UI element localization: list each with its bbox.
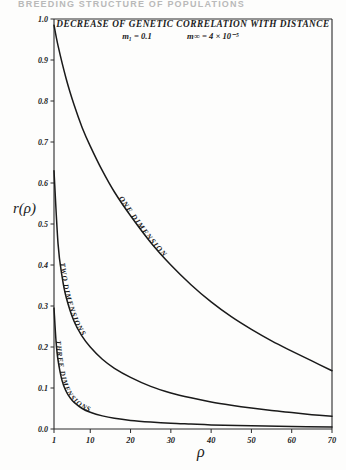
- x-tick-label: 50: [247, 436, 256, 445]
- curve-labels: ONE DIMENSIONTWO DIMENSIONSTHREE DIMENSI…: [54, 194, 169, 414]
- genetic-correlation-chart: DECREASE OF GENETIC CORRELATION WITH DIS…: [0, 0, 346, 470]
- x-axis: 110203040506070: [52, 429, 337, 445]
- y-tick-label: 0.8: [38, 97, 48, 106]
- plot-frame: [54, 19, 332, 429]
- x-tick-label: 40: [206, 436, 216, 445]
- x-tick-label: 10: [86, 436, 95, 445]
- y-tick-label: 0.0: [38, 425, 48, 434]
- parameter-m-infinity: m∞ = 4 × 10⁻⁵: [187, 31, 239, 41]
- x-tick-label: 1: [52, 436, 56, 445]
- figure-page: BREEDING STRUCTURE OF POPULATIONS DECREA…: [0, 0, 346, 470]
- y-tick-label: 0.5: [38, 220, 48, 229]
- curve-label-two-dimensions: TWO DIMENSIONS: [58, 262, 88, 338]
- y-axis-title: r(ρ): [13, 200, 36, 217]
- parameter-m1: m₁ = 0.1: [122, 31, 152, 41]
- curve-three-dimensions: [54, 308, 332, 427]
- curve-label-three-dimensions: THREE DIMENSIONS: [54, 340, 92, 414]
- y-tick-label: 0.1: [38, 384, 48, 393]
- y-tick-label: 0.3: [38, 302, 48, 311]
- y-axis: 0.00.10.20.30.40.50.60.70.80.91.0: [38, 15, 54, 434]
- x-tick-label: 70: [328, 436, 337, 445]
- y-tick-label: 0.6: [38, 179, 48, 188]
- curve-two-dimensions: [54, 171, 332, 417]
- curve-one-dimension: [54, 25, 332, 371]
- y-tick-label: 0.2: [38, 343, 48, 352]
- y-tick-label: 0.4: [38, 261, 48, 270]
- x-tick-label: 60: [288, 436, 297, 445]
- chart-title: DECREASE OF GENETIC CORRELATION WITH DIS…: [55, 19, 330, 29]
- y-tick-label: 0.7: [38, 138, 49, 147]
- y-tick-label: 0.9: [38, 56, 48, 65]
- y-tick-label: 1.0: [38, 15, 48, 24]
- curve-label-one-dimension: ONE DIMENSION: [117, 194, 169, 259]
- x-tick-label: 20: [125, 436, 135, 445]
- data-curves: [54, 25, 332, 427]
- x-tick-label: 30: [166, 436, 176, 445]
- x-axis-title: ρ: [197, 443, 205, 461]
